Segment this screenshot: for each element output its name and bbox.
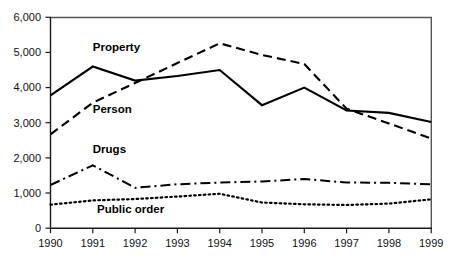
x-tick-label-1996: 1996 xyxy=(292,237,316,249)
x-tick-label-1997: 1997 xyxy=(334,237,358,249)
series-label-drugs: Drugs xyxy=(93,143,126,155)
x-tick-label-1991: 1991 xyxy=(81,237,105,249)
x-tick-label-1994: 1994 xyxy=(207,237,231,249)
x-tick-label-1998: 1998 xyxy=(377,237,401,249)
data-series-group xyxy=(51,43,432,205)
series-label-property: Property xyxy=(93,41,141,53)
x-tick-label-1992: 1992 xyxy=(123,237,147,249)
x-tick-label-1990: 1990 xyxy=(38,237,62,249)
y-axis-labels: 0 1,000 2,000 3,000 4,000 5,000 6,000 xyxy=(13,11,41,234)
y-tick-label-0: 0 xyxy=(35,222,41,234)
y-tick-label-6000: 6,000 xyxy=(13,11,41,23)
x-axis-labels: 1990 1991 1992 1993 1994 1995 1996 1997 … xyxy=(38,237,443,249)
series-label-person: Person xyxy=(93,103,132,115)
y-tick-label-5000: 5,000 xyxy=(13,46,41,58)
chart-canvas: 0 1,000 2,000 3,000 4,000 5,000 6,000 19… xyxy=(0,0,450,261)
series-line-person xyxy=(51,43,432,138)
series-line-drugs xyxy=(51,165,432,188)
x-tick-label-1999: 1999 xyxy=(419,237,443,249)
series-label-public-order: Public order xyxy=(97,203,165,215)
series-annotations: Property Person Drugs Public order xyxy=(93,41,165,215)
x-axis-ticks xyxy=(51,228,432,233)
y-axis-ticks xyxy=(46,17,51,228)
x-tick-label-1993: 1993 xyxy=(165,237,189,249)
y-tick-label-2000: 2,000 xyxy=(13,152,41,164)
line-chart: 0 1,000 2,000 3,000 4,000 5,000 6,000 19… xyxy=(0,0,450,261)
y-tick-label-1000: 1,000 xyxy=(13,187,41,199)
y-tick-label-4000: 4,000 xyxy=(13,81,41,93)
x-tick-label-1995: 1995 xyxy=(250,237,274,249)
y-tick-label-3000: 3,000 xyxy=(13,117,41,129)
